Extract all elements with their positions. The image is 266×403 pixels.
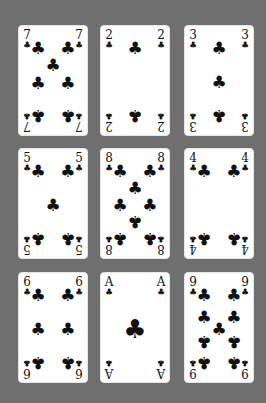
- club-icon: ♣: [112, 162, 127, 179]
- club-icon: ♣: [211, 107, 226, 124]
- club-icon: ♣: [196, 286, 211, 303]
- corner-index-bottom-left: 3♣: [187, 111, 199, 132]
- rank-label: 3: [239, 120, 251, 132]
- club-icon: ♣: [127, 212, 142, 229]
- playing-card-3-of-clubs[interactable]: 3♣ 3♣ 3♣ 3♣ ♣♣♣: [184, 25, 254, 136]
- club-icon: ♣: [127, 107, 142, 124]
- corner-index-top-left: 2♣: [103, 29, 115, 50]
- club-icon: ♣: [60, 286, 75, 303]
- playing-card-a-of-clubs[interactable]: A♣ A♣ A♣ A♣ ♣: [100, 272, 170, 383]
- club-icon: ♣: [196, 354, 211, 371]
- club-icon: ♣: [60, 320, 75, 337]
- club-icon: ♣: [30, 286, 45, 303]
- club-icon: ♣: [239, 111, 251, 120]
- playing-card-8-of-clubs[interactable]: 8♣ 8♣ 8♣ 8♣ ♣♣♣♣♣♣♣♣: [100, 148, 170, 259]
- club-icon: ♣: [226, 332, 241, 349]
- club-icon: ♣: [30, 354, 45, 371]
- club-icon: ♣: [142, 196, 157, 213]
- corner-index-top-right: 2♣: [155, 29, 167, 50]
- club-icon: ♣: [226, 286, 241, 303]
- club-icon: ♣: [60, 162, 75, 179]
- club-icon: ♣: [196, 162, 211, 179]
- playing-card-9-of-clubs[interactable]: 9♣ 9♣ 9♣ 9♣ ♣♣♣♣♣♣♣♣♣: [184, 272, 254, 383]
- playing-card-4-of-clubs[interactable]: 4♣ 4♣ 4♣ 4♣ ♣♣♣♣: [184, 148, 254, 259]
- corner-index-bottom-right: 3♣: [239, 111, 251, 132]
- club-icon: ♣: [30, 39, 45, 56]
- club-icon: ♣: [103, 41, 115, 50]
- club-icon: ♣: [30, 162, 45, 179]
- club-icon: ♣: [155, 288, 167, 297]
- playing-card-7-of-clubs[interactable]: 7♣ 7♣ 7♣ 7♣ ♣♣♣♣♣♣♣: [18, 25, 88, 136]
- club-icon: ♣: [155, 358, 167, 367]
- club-icon: ♣: [142, 162, 157, 179]
- club-icon: ♣: [127, 180, 142, 197]
- corner-index-bottom-right: 2♣: [155, 111, 167, 132]
- corner-index-bottom-right: A♣: [155, 358, 167, 379]
- corner-index-top-right: A♣: [155, 276, 167, 297]
- corner-index-bottom-left: 2♣: [103, 111, 115, 132]
- club-icon: ♣: [103, 288, 115, 297]
- club-icon: ♣: [196, 230, 211, 247]
- club-icon: ♣: [60, 107, 75, 124]
- club-icon: ♣: [30, 320, 45, 337]
- club-icon: ♣: [60, 354, 75, 371]
- club-icon: ♣: [30, 230, 45, 247]
- playing-card-2-of-clubs[interactable]: 2♣ 2♣ 2♣ 2♣ ♣♣: [100, 25, 170, 136]
- rank-label: 3: [187, 120, 199, 132]
- club-icon: ♣: [127, 39, 142, 56]
- club-icon: ♣: [187, 41, 199, 50]
- club-icon: ♣: [226, 308, 241, 325]
- corner-index-top-right: 3♣: [239, 29, 251, 50]
- club-icon: ♣: [123, 316, 146, 342]
- club-icon: ♣: [45, 196, 60, 213]
- playing-card-6-of-clubs[interactable]: 6♣ 6♣ 6♣ 6♣ ♣♣♣♣♣♣: [18, 272, 88, 383]
- corner-index-top-left: 3♣: [187, 29, 199, 50]
- playing-card-5-of-clubs[interactable]: 5♣ 5♣ 5♣ 5♣ ♣♣♣♣♣: [18, 148, 88, 259]
- club-icon: ♣: [30, 74, 45, 91]
- club-icon: ♣: [103, 111, 115, 120]
- club-icon: ♣: [60, 230, 75, 247]
- club-icon: ♣: [196, 308, 211, 325]
- club-icon: ♣: [142, 230, 157, 247]
- club-icon: ♣: [103, 358, 115, 367]
- rank-label: A: [103, 367, 115, 379]
- rank-label: 2: [155, 120, 167, 132]
- club-icon: ♣: [45, 57, 60, 74]
- club-icon: ♣: [112, 196, 127, 213]
- corner-index-top-left: A♣: [103, 276, 115, 297]
- club-icon: ♣: [155, 111, 167, 120]
- club-icon: ♣: [211, 39, 226, 56]
- club-icon: ♣: [211, 73, 226, 90]
- club-icon: ♣: [211, 320, 226, 337]
- club-icon: ♣: [196, 332, 211, 349]
- club-icon: ♣: [30, 107, 45, 124]
- club-icon: ♣: [226, 354, 241, 371]
- club-icon: ♣: [112, 230, 127, 247]
- club-icon: ♣: [60, 74, 75, 91]
- rank-label: 2: [103, 120, 115, 132]
- club-icon: ♣: [60, 39, 75, 56]
- club-icon: ♣: [226, 230, 241, 247]
- club-icon: ♣: [226, 162, 241, 179]
- corner-index-bottom-left: A♣: [103, 358, 115, 379]
- rank-label: A: [155, 367, 167, 379]
- club-icon: ♣: [187, 111, 199, 120]
- club-icon: ♣: [155, 41, 167, 50]
- club-icon: ♣: [239, 41, 251, 50]
